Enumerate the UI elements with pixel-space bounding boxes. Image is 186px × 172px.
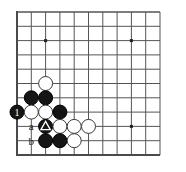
point-label-b[interactable]: b <box>29 135 35 147</box>
go-board-diagram: ab 1 <box>0 0 186 172</box>
stone-disc-black <box>53 134 67 148</box>
stone-disc-black <box>39 91 53 105</box>
stone-black-marked[interactable] <box>39 119 53 133</box>
stone-disc-white <box>67 134 81 148</box>
stone-disc-white <box>67 119 81 133</box>
point-label-a[interactable]: a <box>29 120 34 132</box>
move-number-label: 1 <box>15 107 20 118</box>
goban-svg: ab 1 <box>0 0 186 172</box>
stone-white[interactable] <box>53 119 67 133</box>
stone-white[interactable] <box>24 105 38 119</box>
stone-disc-black <box>24 91 38 105</box>
stone-white[interactable] <box>82 119 96 133</box>
stone-white[interactable] <box>39 77 53 91</box>
star-point <box>130 125 133 128</box>
star-point <box>130 39 133 42</box>
stone-black[interactable] <box>53 134 67 148</box>
stone-disc-white <box>53 119 67 133</box>
stone-white[interactable] <box>39 105 53 119</box>
stone-disc-black <box>39 134 53 148</box>
stone-disc-white <box>39 77 53 91</box>
stone-disc-white <box>24 105 38 119</box>
star-point <box>44 39 47 42</box>
stone-black[interactable] <box>39 91 53 105</box>
stone-disc-black <box>53 105 67 119</box>
stone-black[interactable] <box>53 105 67 119</box>
stone-black[interactable] <box>39 134 53 148</box>
stone-disc-white <box>39 105 53 119</box>
stone-white[interactable] <box>67 119 81 133</box>
stone-black[interactable] <box>24 91 38 105</box>
stone-disc-white <box>82 119 96 133</box>
stone-black-move-1[interactable]: 1 <box>10 105 24 119</box>
stone-white[interactable] <box>67 134 81 148</box>
